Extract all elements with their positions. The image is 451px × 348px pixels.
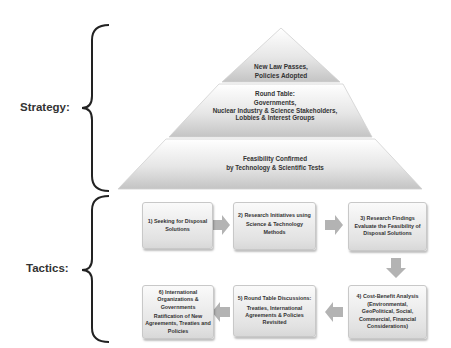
step-4-box: 4) Cost-Benefit Analysis (Environmental,… <box>348 285 427 339</box>
step-2-box: 2) Research Initiatives using Science & … <box>233 202 316 250</box>
pyramid-middle-text: Round Table: Governments, Nuclear Indust… <box>180 89 370 121</box>
step-6-box: 6) International Organizations & Governm… <box>142 285 214 339</box>
arrow-left-4-5 <box>325 302 343 322</box>
step-5-box: 5) Round Table Discussions: Treaties, In… <box>233 285 316 337</box>
tactics-label: Tactics: <box>26 262 69 274</box>
arrow-right-2-3 <box>325 215 343 235</box>
pyramid-top-text: New Law Passes, Policies Adopted <box>226 62 336 80</box>
step-1-box: 1) Seeking for Disposal Solutions <box>142 202 213 249</box>
pyramid-bottom-text: Feasibility Confirmed by Technology & Sc… <box>180 154 370 172</box>
step-3-box: 3) Research Findings Evaluate the Feasib… <box>348 202 427 251</box>
tactics-brace <box>82 196 109 342</box>
arrow-left-5-6 <box>212 302 230 322</box>
arrow-right-1-2 <box>212 215 230 235</box>
strategy-label: Strategy: <box>20 101 70 113</box>
strategy-brace <box>82 25 109 191</box>
arrow-down-3-4 <box>386 258 406 278</box>
